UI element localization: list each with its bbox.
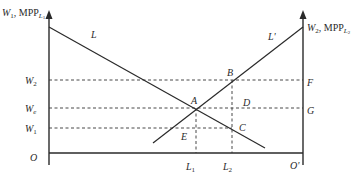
origin-left-label: O xyxy=(30,152,37,163)
curve-l xyxy=(49,27,265,148)
labor-market-diagram: W1, MPPL1 W2, MPPL2 L L' W2 We W1 A B C … xyxy=(0,0,356,180)
l2-label: L2 xyxy=(222,161,233,174)
point-c-label: C xyxy=(239,122,246,133)
point-b-label: B xyxy=(227,67,233,78)
point-a-label: A xyxy=(190,95,198,106)
point-g-label: G xyxy=(307,105,314,116)
right-axis-arrow-icon xyxy=(300,10,307,19)
w2-label: W2 xyxy=(25,75,37,88)
curve-l-prime xyxy=(153,27,303,143)
origin-right-label: O' xyxy=(290,160,300,171)
point-d-label: D xyxy=(242,97,251,108)
we-label: We xyxy=(25,103,36,116)
point-e-label: E xyxy=(180,131,187,142)
guide-lines xyxy=(49,80,303,153)
curve-l-label: L xyxy=(90,29,97,40)
w1-label: W1 xyxy=(25,123,37,136)
point-f-label: F xyxy=(306,77,314,88)
right-axis-label: W2, MPPL2 xyxy=(307,22,351,35)
l1-label: L1 xyxy=(185,161,196,174)
curves xyxy=(49,27,303,148)
left-axis-label: W1, MPPL1 xyxy=(2,7,46,20)
curve-l-prime-label: L' xyxy=(267,31,277,42)
left-axis-arrow-icon xyxy=(46,10,53,19)
